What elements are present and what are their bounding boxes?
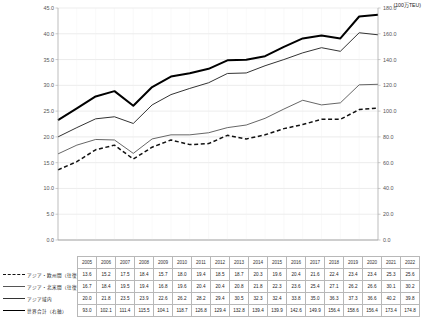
table-value-cell: 19.4 [135, 281, 154, 293]
table-value-cell: 173.4 [382, 305, 401, 317]
table-year-header: 2012 [211, 257, 230, 269]
table-value-cell: 25.6 [401, 269, 420, 281]
table-header-row: 2005200620072008200920102011201220132014… [2, 257, 420, 269]
table-year-header: 2018 [325, 257, 344, 269]
table-value-cell: 102.1 [97, 305, 116, 317]
table-year-header: 2006 [97, 257, 116, 269]
table-value-cell: 139.9 [268, 305, 287, 317]
table-value-cell: 30.5 [230, 293, 249, 305]
left-axis-tick-label: 25.0 [44, 108, 55, 114]
table-value-cell: 18.7 [230, 269, 249, 281]
table-value-cell: 19.6 [173, 281, 192, 293]
right-axis-tick-label: 160.0 [383, 31, 397, 37]
table-value-cell: 139.4 [249, 305, 268, 317]
table-value-cell: 30.1 [382, 281, 401, 293]
table-value-cell: 35.0 [306, 293, 325, 305]
table-year-header: 2022 [401, 257, 420, 269]
table-year-header: 2021 [382, 257, 401, 269]
table-value-cell: 37.3 [344, 293, 363, 305]
table-value-cell: 20.0 [78, 293, 97, 305]
table-row-label-cell: アジア・欧州間（往復） [2, 269, 78, 281]
medium-line-swatch [3, 298, 25, 299]
left-axis-tick-label: 0.0 [47, 237, 55, 243]
right-axis-tick-label: 40.0 [383, 185, 394, 191]
table-value-cell: 32.4 [268, 293, 287, 305]
table-year-header: 2020 [363, 257, 382, 269]
table-year-header: 2011 [192, 257, 211, 269]
series-line [58, 33, 378, 137]
table-row: アジア・欧州間（往復）13.615.217.518.415.718.019.41… [2, 269, 420, 281]
table-value-cell: 104.1 [154, 305, 173, 317]
table-value-cell: 21.8 [97, 293, 116, 305]
table-value-cell: 16.7 [78, 281, 97, 293]
table-value-cell: 20.3 [249, 269, 268, 281]
table-value-cell: 115.5 [135, 305, 154, 317]
right-axis-tick-label: 20.0 [383, 211, 394, 217]
table-value-cell: 26.2 [344, 281, 363, 293]
right-axis-tick-label: 60.0 [383, 160, 394, 166]
table-row-label-cell: アジア・北米間（往復） [2, 281, 78, 293]
thin-line-swatch [3, 286, 25, 287]
right-axis-ticks: 180.0160.0140.0120.0100.080.060.040.020.… [383, 5, 397, 243]
table-value-cell: 18.0 [173, 269, 192, 281]
table-row-label-cell: アジア域内 [2, 293, 78, 305]
table-value-cell: 19.4 [192, 269, 211, 281]
table-year-header: 2014 [249, 257, 268, 269]
chart-plot-area: 45.040.035.030.025.020.015.010.05.00.0 1… [0, 0, 425, 254]
table-value-cell: 26.6 [363, 281, 382, 293]
table-value-cell: 20.8 [230, 281, 249, 293]
table-value-cell: 22.3 [268, 281, 287, 293]
table-value-cell: 19.6 [268, 269, 287, 281]
left-axis-tick-label: 20.0 [44, 134, 55, 140]
left-axis-tick-label: 10.0 [44, 185, 55, 191]
table-year-header: 2016 [287, 257, 306, 269]
table-value-cell: 22.4 [325, 269, 344, 281]
table-value-cell: 19.5 [116, 281, 135, 293]
table-year-header: 2017 [306, 257, 325, 269]
table-value-cell: 16.8 [154, 281, 173, 293]
table-year-header: 2009 [154, 257, 173, 269]
chart-page: (100万TEU) 45.040.035.030.025.020.015.010… [0, 0, 425, 319]
right-axis-tick-label: 180.0 [383, 5, 397, 11]
series-label: アジア・欧州間（往復） [27, 272, 78, 278]
table-year-header: 2008 [135, 257, 154, 269]
table-value-cell: 20.4 [287, 269, 306, 281]
table-value-cell: 27.1 [325, 281, 344, 293]
right-axis-tick-label: 140.0 [383, 57, 397, 63]
table-value-cell: 93.0 [78, 305, 97, 317]
table-year-header: 2013 [230, 257, 249, 269]
table-value-cell: 23.4 [363, 269, 382, 281]
table-value-cell: 29.4 [211, 293, 230, 305]
table-value-cell: 18.5 [211, 269, 230, 281]
table-value-cell: 22.6 [154, 293, 173, 305]
dashed-line-swatch [3, 274, 25, 275]
table-value-cell: 126.8 [192, 305, 211, 317]
data-table-container: 2005200620072008200920102011201220132014… [2, 256, 420, 317]
table-corner-cell [2, 257, 78, 269]
table-value-cell: 28.2 [192, 293, 211, 305]
table-value-cell: 23.9 [135, 293, 154, 305]
table-value-cell: 39.8 [401, 293, 420, 305]
left-axis-tick-label: 5.0 [47, 211, 55, 217]
left-axis-tick-label: 30.0 [44, 82, 55, 88]
table-value-cell: 13.6 [78, 269, 97, 281]
thick-line-swatch [3, 310, 25, 311]
series-lines [58, 15, 378, 170]
table-value-cell: 25.3 [382, 269, 401, 281]
table-year-header: 2005 [78, 257, 97, 269]
table-year-header: 2019 [344, 257, 363, 269]
table-value-cell: 21.6 [306, 269, 325, 281]
table-value-cell: 158.6 [344, 305, 363, 317]
table-row: アジア域内20.021.823.523.922.626.228.229.430.… [2, 293, 420, 305]
table-value-cell: 23.4 [344, 269, 363, 281]
table-value-cell: 36.3 [325, 293, 344, 305]
table-value-cell: 40.2 [382, 293, 401, 305]
table-value-cell: 132.8 [230, 305, 249, 317]
table-value-cell: 156.4 [363, 305, 382, 317]
table-value-cell: 30.2 [401, 281, 420, 293]
table-value-cell: 149.9 [306, 305, 325, 317]
table-value-cell: 18.4 [97, 281, 116, 293]
table-year-header: 2015 [268, 257, 287, 269]
table-value-cell: 15.7 [154, 269, 173, 281]
left-axis-tick-label: 35.0 [44, 57, 55, 63]
